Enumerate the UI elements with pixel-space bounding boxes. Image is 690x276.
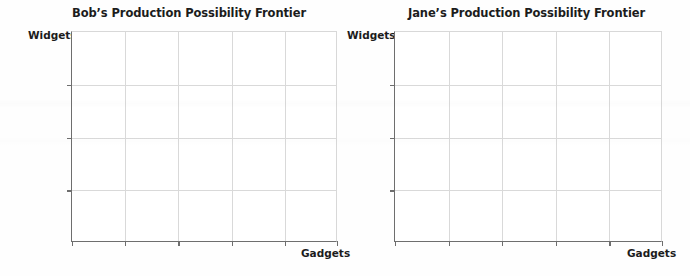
y-axis-tick [67,190,72,191]
x-axis-tick [178,241,179,246]
x-axis-tick [72,241,73,246]
gridline-horizontal [72,85,336,86]
x-axis-tick [337,241,338,246]
gridline-vertical [502,32,503,241]
chart-title-bob: Bob’s Production Possibility Frontier [0,6,350,20]
x-axis-label-bob: Gadgets [301,247,350,259]
x-axis-tick [502,241,503,246]
plot-area-jane [394,31,662,242]
gridline-vertical [449,32,450,241]
gridline-vertical [609,32,610,241]
x-axis-tick [395,241,396,246]
plot-area-bob [71,31,337,242]
y-axis-tick [390,85,395,86]
x-axis-tick [125,241,126,246]
gridline-vertical [178,32,179,241]
chart-title-jane: Jane’s Production Possibility Frontier [345,6,690,20]
gridline-vertical [285,32,286,241]
y-axis-label-bob: Widgets [28,29,77,41]
x-axis-label-jane: Gadgets [627,247,676,259]
x-axis-tick [449,241,450,246]
gridline-vertical [232,32,233,241]
y-axis-tick [67,85,72,86]
y-axis-label-jane: Widgets [347,29,396,41]
x-axis-tick [232,241,233,246]
gridline-vertical [125,32,126,241]
gridline-horizontal [72,190,336,191]
x-axis-tick [609,241,610,246]
gridline-horizontal [72,138,336,139]
y-axis-tick [390,138,395,139]
gridline-vertical [556,32,557,241]
chart-bob: Bob’s Production Possibility Frontier Wi… [0,0,350,276]
chart-jane: Jane’s Production Possibility Frontier W… [345,0,690,276]
gridline-horizontal [395,190,661,191]
gridline-horizontal [395,138,661,139]
x-axis-tick [556,241,557,246]
gridline-horizontal [395,85,661,86]
ppf-worksheet: Bob’s Production Possibility Frontier Wi… [0,0,690,276]
y-axis-tick [390,190,395,191]
x-axis-tick [662,241,663,246]
x-axis-tick [285,241,286,246]
y-axis-tick [67,138,72,139]
